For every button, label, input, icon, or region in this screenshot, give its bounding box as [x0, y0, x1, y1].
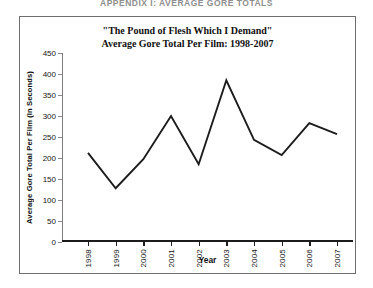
y-tick-label: 450	[43, 49, 56, 58]
chart-title: "The Pound of Flesh Which I Demand" Aver…	[20, 25, 355, 50]
y-tick-label: 150	[43, 175, 56, 184]
y-tick	[58, 242, 62, 243]
x-axis-title: Year	[62, 255, 353, 265]
chart-title-line-1: "The Pound of Flesh Which I Demand"	[20, 25, 355, 38]
series-line	[62, 53, 353, 242]
plot-area: 050100150200250300350400450 199819992000…	[62, 53, 353, 242]
y-tick-label: 100	[43, 196, 56, 205]
y-tick-label: 0	[52, 238, 56, 247]
chart-title-line-2: Average Gore Total Per Film: 1998-2007	[20, 38, 355, 51]
y-tick-label: 350	[43, 91, 56, 100]
y-tick-label: 200	[43, 154, 56, 163]
plot-inner: 050100150200250300350400450 199819992000…	[62, 53, 353, 242]
y-tick-label: 250	[43, 133, 56, 142]
x-axis-title-label: Year	[199, 255, 217, 265]
y-tick-label: 400	[43, 70, 56, 79]
appendix-heading: APPENDIX I: AVERAGE GORE TOTALS	[0, 0, 373, 7]
y-tick-label: 50	[47, 217, 56, 226]
y-tick-label: 300	[43, 112, 56, 121]
y-axis-title: Average Gore Total Per Film (In Seconds)	[23, 53, 35, 242]
figure-frame: "The Pound of Flesh Which I Demand" Aver…	[19, 16, 356, 274]
y-axis-title-label: Average Gore Total Per Film (In Seconds)	[25, 71, 34, 224]
